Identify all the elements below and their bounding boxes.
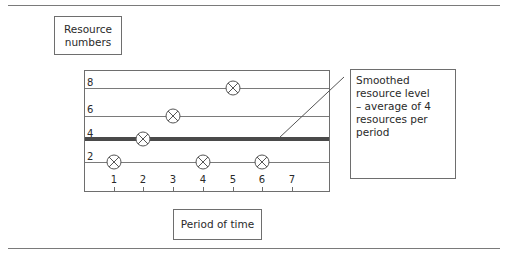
x-tick-5: 5 <box>230 174 236 185</box>
y-tick-2: 2 <box>87 151 93 162</box>
marker-x-icon <box>136 132 150 146</box>
marker-x-icon <box>226 81 240 95</box>
resource-chart: 8 6 4 2 1 2 3 4 5 6 7 <box>0 0 516 260</box>
y-tick-6: 6 <box>87 104 93 115</box>
marker-x-icon <box>196 155 210 169</box>
marker-x-icon <box>107 155 121 169</box>
resource-markers <box>107 81 269 169</box>
y-tick-4: 4 <box>87 128 93 139</box>
marker-x-icon <box>255 155 269 169</box>
x-ticks <box>115 187 293 191</box>
x-tick-1: 1 <box>111 174 117 185</box>
x-tick-2: 2 <box>140 174 146 185</box>
annotation-leader-line <box>279 77 344 138</box>
x-tick-4: 4 <box>200 174 206 185</box>
marker-x-icon <box>166 109 180 123</box>
x-tick-7: 7 <box>289 174 295 185</box>
y-tick-8: 8 <box>87 77 93 88</box>
x-tick-3: 3 <box>170 174 176 185</box>
x-tick-6: 6 <box>259 174 265 185</box>
